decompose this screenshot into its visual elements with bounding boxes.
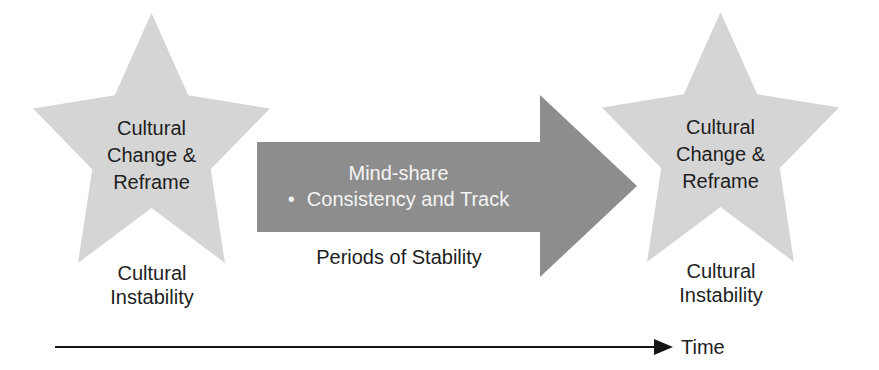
left-star-label-line1: Cultural [33, 115, 270, 142]
right-star-label-line1: Cultural [602, 114, 839, 141]
diagram-canvas: Cultural Change & Reframe Cultural Chang… [0, 0, 879, 370]
left-star-caption-line1: Cultural [72, 261, 232, 285]
left-star-label-line3: Reframe [33, 169, 270, 196]
consistency-label: Consistency and Track [307, 188, 509, 210]
right-star-caption: Cultural Instability [641, 259, 801, 307]
left-star-caption-line2: Instability [72, 285, 232, 309]
left-star-label: Cultural Change & Reframe [33, 115, 270, 196]
left-star-label-line2: Change & [33, 142, 270, 169]
right-star-label-line3: Reframe [602, 168, 839, 195]
mind-share-label: Mind-share [257, 160, 540, 186]
right-star-label-line2: Change & [602, 141, 839, 168]
right-star-caption-line2: Instability [641, 283, 801, 307]
time-label: Time [681, 335, 725, 359]
periods-of-stability-label: Periods of Stability [279, 245, 519, 269]
left-star: Cultural Change & Reframe [33, 13, 270, 263]
right-star-caption-line1: Cultural [641, 259, 801, 283]
right-star-label: Cultural Change & Reframe [602, 114, 839, 195]
timeline-axis [55, 346, 656, 348]
right-star: Cultural Change & Reframe [602, 12, 839, 262]
bullet-icon: • [288, 186, 295, 212]
timeline-arrowhead-icon [654, 339, 673, 355]
left-star-caption: Cultural Instability [72, 261, 232, 309]
stability-arrow-label: Mind-share •Consistency and Track [257, 160, 540, 212]
consistency-label-line: •Consistency and Track [257, 186, 540, 212]
